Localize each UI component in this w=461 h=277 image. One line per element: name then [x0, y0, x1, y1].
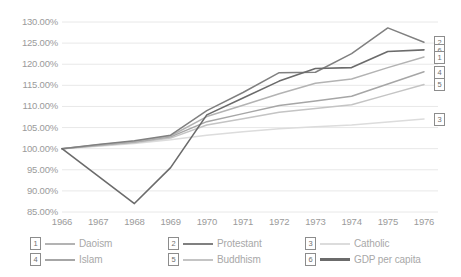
legend-label: GDP per capita	[354, 254, 421, 265]
legend-color-swatch	[320, 243, 350, 245]
legend-key-box: 2	[168, 237, 179, 250]
legend-item-daoism[interactable]: 1Daoism	[30, 236, 112, 251]
series-line-islam	[62, 72, 424, 149]
legend-label: Protestant	[217, 238, 262, 249]
x-axis-tick-label: 1974	[332, 216, 372, 227]
x-axis-tick-label: 1971	[223, 216, 263, 227]
legend-label: Buddhism	[217, 254, 261, 265]
legend-key-box: 4	[30, 253, 41, 266]
legend-color-swatch	[183, 259, 213, 261]
end-marker-catholic: 3	[434, 113, 445, 126]
y-axis-tick-label: 105.00%	[0, 122, 58, 133]
series-line-daoism	[62, 57, 424, 149]
legend-item-protestant[interactable]: 2Protestant	[168, 236, 262, 251]
legend-color-swatch	[320, 258, 350, 261]
y-axis-tick-label: 110.00%	[0, 100, 58, 111]
legend-color-swatch	[45, 243, 75, 245]
series-line-buddhism	[62, 84, 424, 148]
legend-color-swatch	[183, 243, 213, 245]
y-axis-tick-label: 90.00%	[0, 185, 58, 196]
legend-label: Daoism	[79, 238, 112, 249]
y-axis-tick-label: 115.00%	[0, 79, 58, 90]
y-axis-tick-label: 125.00%	[0, 37, 58, 48]
y-axis-tick-label: 120.00%	[0, 58, 58, 69]
end-marker-daoism: 1	[434, 51, 445, 64]
x-axis-tick-label: 1967	[78, 216, 118, 227]
legend-item-islam[interactable]: 4Islam	[30, 252, 102, 267]
x-axis-tick-label: 1969	[151, 216, 191, 227]
end-marker-buddhism: 5	[434, 78, 445, 91]
legend-color-swatch	[45, 259, 75, 261]
legend-item-gdp-per-capita[interactable]: 6GDP per capita	[305, 252, 421, 267]
chart-legend: 1Daoism2Protestant3Catholic4Islam5Buddhi…	[0, 236, 461, 277]
end-marker-islam: 4	[434, 66, 445, 79]
legend-key-box: 5	[168, 253, 179, 266]
x-axis-tick-label: 1966	[42, 216, 82, 227]
legend-key-box: 3	[305, 237, 316, 250]
x-axis-tick-label: 1970	[187, 216, 227, 227]
chart-canvas	[0, 0, 461, 232]
x-axis-tick-label: 1972	[259, 216, 299, 227]
y-axis-tick-label: 130.00%	[0, 16, 58, 27]
x-axis-tick-label: 1968	[114, 216, 154, 227]
series-line-protestant	[62, 28, 424, 149]
x-axis-tick-label: 1973	[295, 216, 335, 227]
legend-label: Islam	[79, 254, 102, 265]
y-axis-tick-label: 100.00%	[0, 143, 58, 154]
x-axis-tick-label: 1975	[368, 216, 408, 227]
series-lines	[62, 28, 424, 204]
x-axis-tick-label: 1976	[404, 216, 444, 227]
legend-label: Catholic	[354, 238, 389, 249]
legend-item-buddhism[interactable]: 5Buddhism	[168, 252, 261, 267]
line-chart: 130.00%125.00%120.00%115.00%110.00%105.0…	[0, 0, 461, 277]
legend-key-box: 1	[30, 237, 41, 250]
plot-area: 130.00%125.00%120.00%115.00%110.00%105.0…	[0, 0, 461, 232]
legend-item-catholic[interactable]: 3Catholic	[305, 236, 389, 251]
y-axis-tick-label: 95.00%	[0, 164, 58, 175]
legend-key-box: 6	[305, 253, 316, 266]
